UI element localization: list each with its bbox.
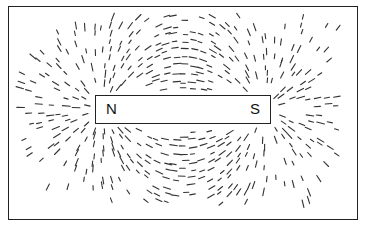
south-pole-label: S [250,100,260,117]
north-pole-label: N [106,100,117,117]
bar-magnet: N S [95,95,271,124]
